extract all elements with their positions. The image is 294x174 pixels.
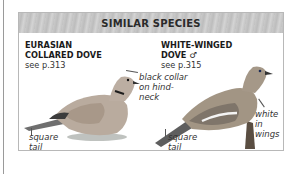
species-name-line: EURASIAN — [25, 40, 102, 50]
panel-title: SIMILAR SPECIES — [101, 18, 200, 29]
annotation-line: tail — [168, 142, 197, 152]
annotation-line: white in — [255, 109, 283, 129]
tail-leader-line — [165, 129, 166, 137]
annotation-line: wings — [255, 129, 283, 139]
panel-header: SIMILAR SPECIES — [19, 13, 283, 33]
similar-species-panel: SIMILAR SPECIES EURASIAN COLLARED DOVE s… — [18, 12, 284, 151]
annotation-square-tail: square tail — [168, 132, 197, 152]
annotation-line: tail — [29, 142, 58, 152]
page-margin-rule — [3, 0, 4, 174]
annotation-square-tail: square tail — [29, 132, 58, 152]
annotation-line: square — [168, 132, 197, 142]
species-name-line: WHITE-WINGED — [161, 40, 232, 50]
annotation-white-in-wings: white in wings — [255, 109, 283, 139]
annotation-line: square — [29, 132, 58, 142]
